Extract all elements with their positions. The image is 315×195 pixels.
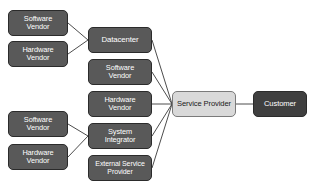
node-sw-vendor-mid[interactable]: Software Vendor	[88, 59, 152, 85]
node-system-integrator[interactable]: System Integrator	[88, 123, 152, 149]
node-label-sw-vendor-bot: Software Vendor	[24, 116, 52, 133]
node-label-sw-vendor-top: Software Vendor	[24, 15, 52, 32]
edge-hw-vendor-top-to-datacenter	[68, 40, 88, 54]
node-label-hw-vendor-mid: Hardware Vendor	[104, 96, 135, 113]
node-label-datacenter: Datacenter	[101, 36, 138, 45]
edge-sw-vendor-top-to-datacenter	[68, 23, 88, 40]
edge-external-service-to-service-provider	[152, 104, 172, 168]
edge-hw-vendor-bot-to-system-integrator	[68, 136, 88, 157]
node-label-system-integrator: System Integrator	[105, 128, 136, 145]
node-hw-vendor-bot[interactable]: Hardware Vendor	[8, 144, 68, 170]
node-hw-vendor-mid[interactable]: Hardware Vendor	[88, 91, 152, 117]
node-label-external-service: External Service Provider	[95, 160, 144, 176]
node-sw-vendor-bot[interactable]: Software Vendor	[8, 111, 68, 137]
node-hw-vendor-top[interactable]: Hardware Vendor	[8, 41, 68, 67]
diagram-canvas: Software VendorHardware VendorDatacenter…	[0, 0, 315, 195]
node-external-service[interactable]: External Service Provider	[88, 155, 152, 181]
node-label-sw-vendor-mid: Software Vendor	[106, 64, 134, 81]
node-service-provider[interactable]: Service Provider	[172, 91, 236, 117]
edge-sw-vendor-bot-to-system-integrator	[68, 124, 88, 136]
edge-system-integrator-to-service-provider	[152, 104, 172, 136]
edge-datacenter-to-service-provider	[152, 40, 172, 104]
node-label-hw-vendor-bot: Hardware Vendor	[22, 149, 53, 166]
node-customer[interactable]: Customer	[253, 91, 307, 117]
edge-sw-vendor-mid-to-service-provider	[152, 72, 172, 104]
node-sw-vendor-top[interactable]: Software Vendor	[8, 10, 68, 36]
node-label-service-provider: Service Provider	[177, 100, 231, 109]
node-datacenter[interactable]: Datacenter	[88, 27, 152, 53]
node-label-hw-vendor-top: Hardware Vendor	[22, 46, 53, 63]
node-label-customer: Customer	[264, 100, 296, 109]
